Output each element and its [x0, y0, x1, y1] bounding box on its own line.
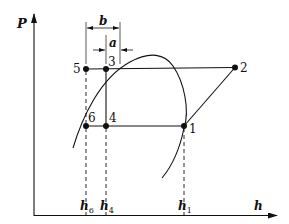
label-point-2: 2 — [240, 61, 248, 75]
ph-diagram: P h b a 5 3 — [0, 0, 289, 224]
h-axis-label: h — [254, 199, 263, 213]
tick-h1: h1 — [178, 199, 192, 215]
p-axis-label: P — [16, 16, 28, 31]
point-5 — [83, 66, 89, 72]
dimension-b-label: b — [99, 14, 107, 28]
dimension-a-label: a — [109, 36, 117, 50]
x-tick-labels: h6 h4 h1 — [80, 199, 192, 215]
label-point-4: 4 — [109, 111, 117, 125]
line-2-1 — [184, 68, 235, 127]
point-2 — [232, 65, 238, 71]
label-point-3: 3 — [108, 55, 116, 69]
label-point-6: 6 — [88, 111, 96, 125]
label-point-5: 5 — [73, 62, 81, 76]
tick-h4: h4 — [100, 199, 114, 215]
label-point-1: 1 — [189, 122, 197, 136]
projection-lines — [86, 71, 184, 215]
axes: P h — [16, 14, 277, 216]
tick-h6: h6 — [80, 199, 94, 215]
point-1 — [181, 123, 187, 129]
